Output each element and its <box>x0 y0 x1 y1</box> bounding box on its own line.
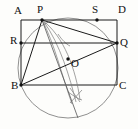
segment-BQ <box>21 43 117 85</box>
point-label-r: R <box>10 34 18 46</box>
vertex-dot-q <box>115 41 118 44</box>
segments-group <box>21 20 117 118</box>
vertex-dot-b <box>19 83 22 86</box>
point-label-o: O <box>71 57 79 69</box>
geometry-figure: APSDRQOBC <box>0 0 138 129</box>
point-label-a: A <box>14 4 22 16</box>
segment-PO-extended <box>42 20 78 118</box>
circumscribed-circle <box>18 18 118 118</box>
vertex-dot-p <box>40 18 43 21</box>
vertex-dot-r <box>19 41 22 44</box>
point-label-q: Q <box>120 36 128 48</box>
vertex-dot-s <box>95 18 98 21</box>
figure-canvas: APSDRQOBC <box>0 0 138 129</box>
vertex-dot-o <box>66 57 69 60</box>
point-label-d: D <box>118 3 126 15</box>
point-label-s: S <box>92 3 98 15</box>
point-label-b: B <box>11 79 18 91</box>
point-label-p: P <box>37 3 43 15</box>
point-label-c: C <box>119 79 126 91</box>
segment-PB <box>21 20 42 85</box>
segment-PQ <box>42 20 117 43</box>
